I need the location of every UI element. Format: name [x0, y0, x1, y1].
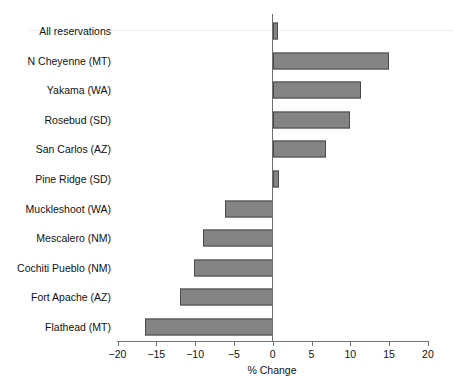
bar — [273, 82, 362, 99]
x-tick-label: −5 — [228, 348, 240, 360]
x-tick-label: −20 — [109, 348, 127, 360]
category-label: Muckleshoot (WA) — [26, 203, 111, 215]
bar — [273, 141, 327, 158]
x-tick-label: 20 — [422, 348, 434, 360]
category-label: Cochiti Pueblo (NM) — [17, 262, 111, 274]
bar-chart: All reservationsN Cheyenne (MT)Yakama (W… — [0, 0, 453, 391]
x-tick-label: 10 — [344, 348, 356, 360]
category-label: Fort Apache (AZ) — [31, 291, 111, 303]
zero-axis-line — [272, 14, 273, 342]
x-tick — [389, 341, 390, 346]
bar — [145, 319, 272, 336]
bar — [225, 200, 272, 217]
plot-area: All reservationsN Cheyenne (MT)Yakama (W… — [0, 0, 453, 391]
bar — [273, 52, 389, 69]
category-label: Flathead (MT) — [45, 321, 111, 333]
bar — [203, 230, 273, 247]
x-axis-title: % Change — [247, 364, 296, 376]
category-label: Rosebud (SD) — [44, 114, 111, 126]
bar — [180, 289, 273, 306]
bar — [273, 111, 351, 128]
x-tick-label: 0 — [270, 348, 276, 360]
bar — [273, 171, 279, 188]
x-tick — [156, 341, 157, 346]
x-tick — [312, 341, 313, 346]
bar — [273, 23, 278, 40]
category-label: Mescalero (NM) — [36, 232, 111, 244]
x-tick-label: 5 — [309, 348, 315, 360]
bar — [194, 259, 272, 276]
category-label: All reservations — [39, 25, 111, 37]
x-tick-label: −15 — [147, 348, 165, 360]
x-tick — [118, 341, 119, 346]
category-label: Yakama (WA) — [47, 84, 111, 96]
x-tick — [234, 341, 235, 346]
category-label: San Carlos (AZ) — [36, 143, 111, 155]
x-tick — [350, 341, 351, 346]
x-tick-label: 15 — [383, 348, 395, 360]
category-label: Pine Ridge (SD) — [35, 173, 111, 185]
x-tick — [428, 341, 429, 346]
x-tick-label: −10 — [186, 348, 204, 360]
x-tick — [273, 341, 274, 346]
x-tick — [195, 341, 196, 346]
category-label: N Cheyenne (MT) — [28, 55, 111, 67]
